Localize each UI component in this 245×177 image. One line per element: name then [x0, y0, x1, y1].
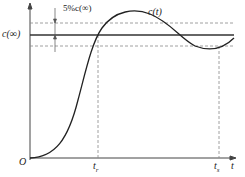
t-axis-label: t [231, 160, 234, 171]
response-curve [30, 11, 234, 158]
step-response-diagram [0, 0, 245, 177]
band-label: 5%c(∞) [63, 3, 91, 13]
rise-time-sub: r [96, 166, 99, 174]
band-arrows [54, 8, 57, 52]
rise-time-label: tr [93, 160, 99, 174]
settle-time-sub: s [217, 166, 220, 174]
origin-label: O [19, 156, 26, 167]
tolerance-band [30, 23, 234, 158]
axes [28, 3, 236, 160]
settle-time-label: ts [214, 160, 220, 174]
curve-label: c(t) [148, 6, 162, 17]
steady-state-label: c(∞) [2, 28, 20, 39]
